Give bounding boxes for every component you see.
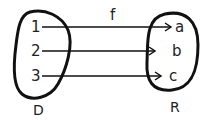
range-element: a <box>175 18 184 36</box>
range-element: c <box>169 67 177 85</box>
domain-element: 3 <box>31 67 41 85</box>
function-label: f <box>110 6 116 24</box>
range-element: b <box>172 42 182 60</box>
domain-element: 2 <box>31 42 41 60</box>
domain-label: D <box>33 102 44 118</box>
mapping-arrow <box>42 47 155 55</box>
domain-set-outline <box>14 11 70 98</box>
function-diagram: f 1 2 3 a b c D R <box>0 0 214 120</box>
domain-element: 1 <box>31 18 41 36</box>
range-label: R <box>170 99 180 115</box>
